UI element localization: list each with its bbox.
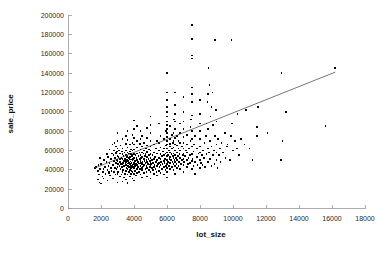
- x-tick-label: 8000: [192, 215, 208, 222]
- data-point: [118, 150, 120, 152]
- data-point: [190, 119, 192, 121]
- data-point: [119, 176, 121, 178]
- data-point: [155, 161, 157, 163]
- data-point: [231, 123, 233, 125]
- data-point: [183, 96, 185, 98]
- data-point: [176, 152, 178, 154]
- data-point: [171, 153, 173, 155]
- data-point: [256, 135, 258, 137]
- y-tick-label: 100000: [41, 108, 64, 115]
- data-point: [183, 164, 185, 166]
- data-point: [183, 161, 185, 163]
- data-point: [150, 178, 152, 180]
- data-point: [175, 157, 177, 159]
- data-point: [172, 161, 174, 163]
- data-point: [160, 147, 162, 149]
- data-point: [146, 151, 148, 153]
- data-point: [194, 173, 196, 175]
- data-point: [179, 157, 181, 159]
- data-point: [113, 150, 115, 152]
- data-point: [166, 167, 168, 169]
- data-point: [125, 135, 127, 137]
- data-point: [143, 153, 145, 155]
- x-tick-label: 2000: [93, 215, 109, 222]
- data-point: [99, 168, 101, 170]
- data-point: [199, 167, 201, 169]
- data-point: [183, 158, 185, 160]
- data-point: [186, 159, 188, 161]
- data-point: [115, 146, 117, 148]
- data-point: [129, 176, 131, 178]
- data-point: [150, 150, 152, 152]
- data-point: [127, 155, 129, 157]
- data-point: [132, 134, 134, 136]
- data-point: [125, 170, 127, 172]
- data-point: [174, 128, 176, 130]
- data-point: [168, 150, 170, 152]
- data-point: [110, 167, 112, 169]
- data-point: [166, 116, 168, 118]
- data-point: [120, 163, 122, 165]
- data-point: [203, 157, 205, 159]
- x-tick-label: 4000: [126, 215, 142, 222]
- data-point: [194, 135, 196, 137]
- data-point: [173, 132, 175, 134]
- data-point: [173, 163, 175, 165]
- data-point: [129, 151, 131, 153]
- data-point: [136, 140, 138, 142]
- data-point: [199, 152, 201, 154]
- data-point: [150, 124, 152, 126]
- data-point: [119, 153, 121, 155]
- data-point: [133, 144, 135, 146]
- data-point: [179, 142, 181, 144]
- data-point: [143, 158, 145, 160]
- x-axis-ticks: 0200040006000800010000120001400016000180…: [66, 205, 375, 223]
- data-point: [146, 167, 148, 169]
- data-point: [174, 144, 176, 146]
- data-point: [122, 148, 124, 150]
- x-tick-label: 0: [66, 215, 70, 222]
- data-point: [207, 101, 209, 103]
- data-point: [122, 158, 124, 160]
- data-point: [118, 156, 120, 158]
- data-point: [199, 130, 201, 132]
- data-point: [145, 168, 147, 170]
- data-point: [105, 173, 107, 175]
- data-point: [106, 153, 108, 155]
- data-point: [325, 125, 327, 127]
- data-point: [193, 151, 195, 153]
- data-point: [207, 161, 209, 163]
- data-point: [133, 162, 135, 164]
- x-tick-label: 12000: [256, 215, 276, 222]
- data-point: [170, 159, 172, 161]
- x-axis-title: lot_size: [196, 230, 226, 239]
- data-point: [204, 166, 206, 168]
- data-point: [174, 159, 176, 161]
- data-point: [191, 168, 193, 170]
- data-point: [185, 150, 187, 152]
- data-point: [146, 161, 148, 163]
- y-axis-title: sale_price: [6, 94, 15, 134]
- data-point: [132, 171, 134, 173]
- x-tick-label: 10000: [223, 215, 243, 222]
- data-point: [158, 150, 160, 152]
- data-point: [249, 148, 251, 150]
- data-point: [123, 165, 125, 167]
- data-point: [97, 179, 99, 181]
- data-point: [133, 157, 135, 159]
- data-point: [139, 168, 141, 170]
- data-point: [127, 147, 129, 149]
- data-point: [130, 149, 132, 151]
- data-point: [199, 123, 201, 125]
- data-point: [256, 126, 258, 128]
- data-point: [174, 165, 176, 167]
- data-point: [181, 159, 183, 161]
- data-point: [122, 162, 124, 164]
- data-point: [188, 148, 190, 150]
- data-point: [191, 160, 193, 162]
- data-point: [100, 183, 102, 185]
- data-point: [99, 157, 101, 159]
- data-point: [169, 152, 171, 154]
- data-point: [183, 171, 185, 173]
- x-tick-label: 6000: [159, 215, 175, 222]
